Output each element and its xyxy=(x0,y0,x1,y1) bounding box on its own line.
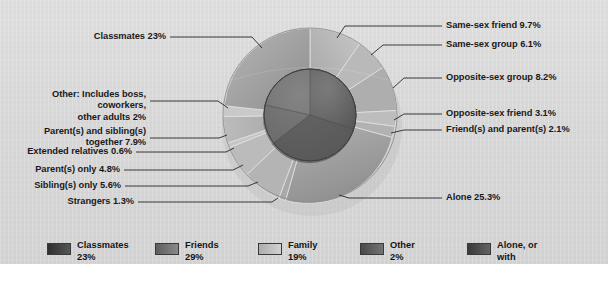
label-same-sex-friend: Same-sex friend 9.7% xyxy=(446,20,541,31)
leader-classmates xyxy=(170,37,262,48)
label-alone: Alone 25.3% xyxy=(446,192,500,203)
leader-siblings-only xyxy=(125,182,258,186)
bottom-white-strip xyxy=(0,264,608,288)
leader-strangers xyxy=(138,198,278,202)
leader-extended-relatives xyxy=(136,148,234,152)
leader-parents-and-siblings xyxy=(150,135,227,138)
label-other: Other: Includes boss, coworkers, other a… xyxy=(6,89,146,123)
legend-swatch-alone-or-strangers xyxy=(467,243,491,255)
label-strangers: Strangers 1.3% xyxy=(8,196,134,207)
leader-same-sex-group xyxy=(371,45,442,55)
label-same-sex-group: Same-sex group 6.1% xyxy=(446,39,541,50)
label-classmates: Classmates 23% xyxy=(20,31,166,42)
legend-label-other: Other 2% xyxy=(390,240,415,263)
legend-label-friends: Friends 29% xyxy=(185,240,219,263)
leader-other xyxy=(150,101,228,108)
figure-container: Same-sex friend 9.7% Same-sex group 6.1%… xyxy=(0,0,608,288)
label-siblings-only: Sibling(s) only 5.6% xyxy=(8,180,121,191)
legend-swatch-classmates xyxy=(47,243,71,255)
leader-same-sex-friend xyxy=(337,26,442,38)
leader-parents-only xyxy=(124,165,243,170)
chart-plate: Same-sex friend 9.7% Same-sex group 6.1%… xyxy=(0,0,608,264)
label-opposite-sex-group: Opposite-sex group 8.2% xyxy=(446,72,556,83)
label-friends-and-parents: Friend(s) and parent(s) 2.1% xyxy=(446,124,570,135)
leader-opposite-sex-group xyxy=(393,78,442,88)
legend-label-family: Family 19% xyxy=(288,240,317,263)
label-parents-only: Parent(s) only 4.8% xyxy=(8,164,120,175)
label-opposite-sex-friend: Opposite-sex friend 3.1% xyxy=(446,108,556,119)
label-extended-relatives: Extended relatives 0.6% xyxy=(8,146,132,157)
legend-swatch-other xyxy=(360,243,384,255)
legend-label-classmates: Classmates 23% xyxy=(77,240,129,263)
legend-swatch-family xyxy=(258,243,282,255)
legend: Classmates 23% Friends 29% Family 19% Ot… xyxy=(0,240,608,266)
legend-swatch-friends xyxy=(155,243,179,255)
